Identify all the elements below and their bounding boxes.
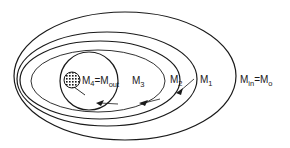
- label-m3: M3: [132, 75, 145, 89]
- label-m4-eq-mout: M4=Mout: [82, 75, 120, 89]
- pointer-disc: [74, 87, 85, 95]
- pointer-m4: [100, 103, 118, 104]
- label-min-eq-mo: Min=Mo: [240, 74, 273, 88]
- label-m1: M1: [200, 74, 213, 88]
- label-m2: M2: [170, 74, 183, 88]
- hatched-disc: [64, 72, 80, 88]
- nested-ellipse-diagram: M4=Mout M3 M2 M1 Min=Mo: [0, 0, 290, 148]
